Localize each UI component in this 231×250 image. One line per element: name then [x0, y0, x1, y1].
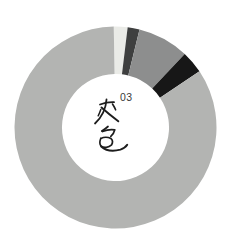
hanzi-se-calligraphy	[100, 127, 127, 151]
hanzi-hui-calligraphy	[95, 100, 118, 124]
donut-chart: 03	[0, 0, 231, 250]
donut-chart-figure: 灰色 03	[0, 0, 231, 250]
calligraphy-stroke	[103, 130, 115, 137]
calligraphy-stroke	[98, 110, 101, 116]
calligraphy-stroke	[113, 104, 116, 110]
center-superscript: 03	[120, 91, 133, 103]
slices-group	[15, 27, 217, 229]
